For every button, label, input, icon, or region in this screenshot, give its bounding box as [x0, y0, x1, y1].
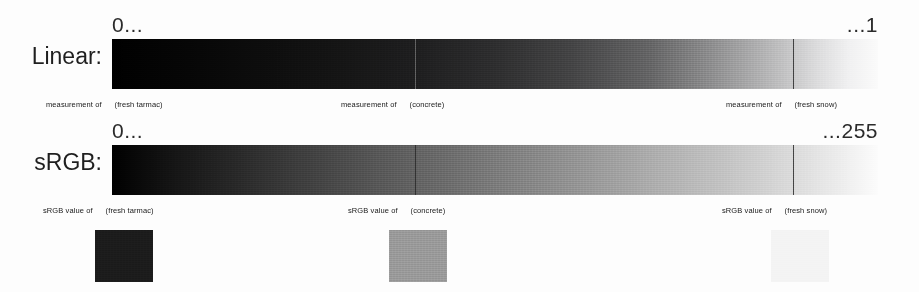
swatch-fill — [389, 230, 447, 282]
caption-value — [784, 100, 793, 109]
caption-value — [399, 100, 408, 109]
srgb-row-label: sRGB: — [0, 151, 102, 174]
linear-gradient-bar — [112, 39, 878, 89]
srgb-scale-start-label: 0... — [112, 120, 143, 141]
linear-caption-concrete: measurement of (concrete) — [341, 101, 444, 109]
caption-material: (fresh snow) — [795, 100, 837, 109]
caption-material: (fresh snow) — [785, 206, 827, 215]
srgb-caption-concrete: sRGB value of (concrete) — [348, 207, 445, 215]
caption-prefix: sRGB value of — [722, 206, 772, 215]
linear-tick-concrete — [415, 39, 416, 89]
caption-value — [774, 206, 783, 215]
linear-gradient-fill — [112, 39, 878, 89]
srgb-tick-concrete — [415, 145, 416, 195]
swatch-fresh-snow — [771, 230, 829, 282]
caption-material: (fresh tarmac) — [115, 100, 163, 109]
srgb-caption-fresh-snow: sRGB value of (fresh snow) — [722, 207, 827, 215]
caption-prefix: measurement of — [341, 100, 397, 109]
linear-caption-fresh-tarmac: measurement of (fresh tarmac) — [46, 101, 163, 109]
caption-prefix: measurement of — [726, 100, 782, 109]
linear-scale-end-label: ...1 — [847, 14, 878, 35]
srgb-gradient-fill — [112, 145, 878, 195]
swatch-fill — [771, 230, 829, 282]
srgb-caption-fresh-tarmac: sRGB value of (fresh tarmac) — [43, 207, 154, 215]
caption-prefix: sRGB value of — [348, 206, 398, 215]
caption-material: (fresh tarmac) — [106, 206, 154, 215]
caption-material: (concrete) — [411, 206, 446, 215]
linear-tick-fresh-snow — [793, 39, 794, 89]
swatch-concrete — [389, 230, 447, 282]
srgb-tick-fresh-snow — [793, 145, 794, 195]
srgb-gradient-bar — [112, 145, 878, 195]
srgb-scale-end-label: ...255 — [822, 120, 878, 141]
caption-value — [400, 206, 409, 215]
caption-prefix: sRGB value of — [43, 206, 93, 215]
linear-scale-start-label: 0... — [112, 14, 143, 35]
swatch-fresh-tarmac — [95, 230, 153, 282]
caption-value — [104, 100, 113, 109]
caption-material: (concrete) — [410, 100, 445, 109]
caption-prefix: measurement of — [46, 100, 102, 109]
swatch-fill — [95, 230, 153, 282]
linear-row-label: Linear: — [0, 45, 102, 68]
linear-caption-fresh-snow: measurement of (fresh snow) — [726, 101, 837, 109]
caption-value — [95, 206, 104, 215]
